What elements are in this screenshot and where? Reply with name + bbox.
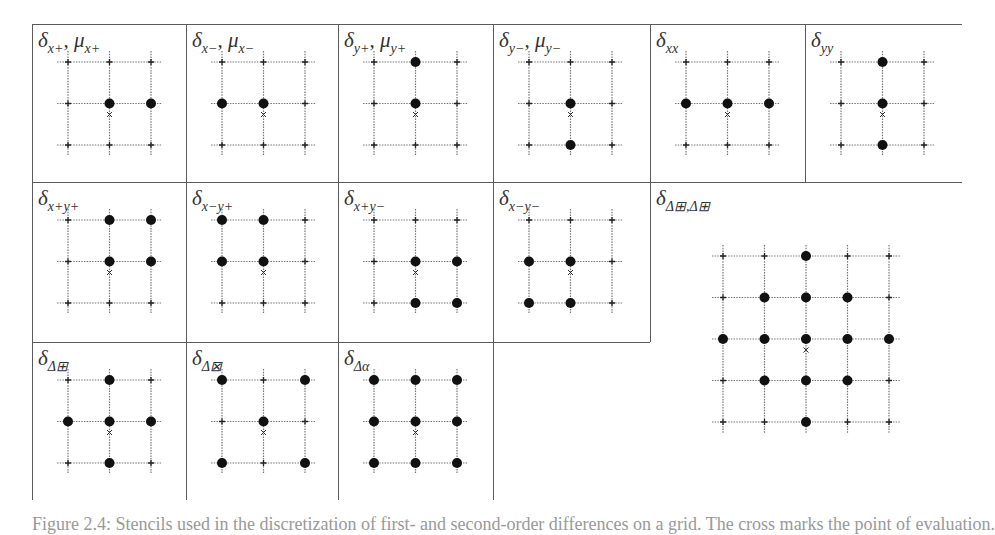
stencil-grid [57,369,162,474]
stencil-point-icon [566,298,576,308]
grid-node-icon [454,101,460,107]
grid-node-icon [720,378,726,384]
grid-node-icon [371,259,377,265]
stencil-point-icon [411,375,421,385]
grid-node-icon [568,59,574,65]
grid-node-icon [609,259,615,265]
divider [338,24,339,500]
stencil-point-icon [411,99,421,109]
stencil-point-icon [411,57,421,67]
grid-node-icon [371,300,377,306]
grid-node-icon [845,253,851,259]
stencil-point-icon [884,334,894,344]
grid-node-icon [302,259,308,265]
grid-node-icon [766,142,772,148]
stencil-label: δΔ⊞,Δ⊞ [656,188,710,214]
stencil-point-icon [801,376,811,386]
grid-node-icon [219,142,225,148]
stencil-grid [675,51,780,156]
stencil-grid [211,51,316,156]
grid-node-icon [65,460,71,466]
grid-node-icon [921,101,927,107]
stencil-point-icon [63,417,73,427]
stencil-point-icon [566,140,576,150]
stencil-point-icon [566,99,576,109]
stencil-grid [518,51,623,156]
grid-node-icon [219,300,225,306]
stencil-point-icon [259,417,269,427]
grid-node-icon [413,217,419,223]
grid-node-icon [148,59,154,65]
stencil-point-icon [843,334,853,344]
grid-node-icon [838,142,844,148]
grid-node-icon [261,142,267,148]
stencil-point-icon [300,375,310,385]
grid-node-icon [302,142,308,148]
grid-node-icon [148,142,154,148]
grid-node-icon [371,142,377,148]
grid-node-icon [302,59,308,65]
stencil-point-icon [146,417,156,427]
stencil-grid [830,51,935,156]
stencil-point-icon [105,99,115,109]
grid-node-icon [725,59,731,65]
grid-node-icon [725,142,731,148]
divider [493,24,494,500]
grid-node-icon [107,59,113,65]
grid-node-icon [526,101,532,107]
stencil-grid [211,369,316,474]
stencil-point-icon [105,458,115,468]
grid-node-icon [609,101,615,107]
stencil-grid [712,245,900,433]
grid-node-icon [609,142,615,148]
grid-node-icon [762,253,768,259]
stencil-point-icon [843,293,853,303]
stencil-point-icon [878,99,888,109]
grid-node-icon [762,419,768,425]
stencil-point-icon [259,99,269,109]
grid-node-icon [845,419,851,425]
stencil-grid [57,209,162,314]
stencil-point-icon [105,375,115,385]
grid-node-icon [302,300,308,306]
grid-node-icon [65,101,71,107]
grid-node-icon [526,59,532,65]
border-top [32,24,962,25]
grid-node-icon [766,59,772,65]
stencil-point-icon [105,215,115,225]
divider [650,24,651,342]
stencil-point-icon [300,458,310,468]
grid-node-icon [371,101,377,107]
divider [186,24,187,500]
grid-node-icon [838,101,844,107]
grid-node-icon [886,419,892,425]
stencil-point-icon [524,298,534,308]
stencil-point-icon [411,458,421,468]
stencil-grid [363,51,468,156]
grid-node-icon [107,142,113,148]
grid-node-icon [683,142,689,148]
stencil-point-icon [411,417,421,427]
stencil-point-icon [217,215,227,225]
stencil-grid [518,209,623,314]
stencil-grid [211,209,316,314]
stencil-point-icon [801,334,811,344]
stencil-point-icon [878,57,888,67]
grid-node-icon [148,300,154,306]
stencil-point-icon [146,257,156,267]
stencil-grid [363,369,468,474]
grid-node-icon [609,300,615,306]
stencil-point-icon [681,99,691,109]
stencil-point-icon [259,257,269,267]
stencil-point-icon [878,140,888,150]
figure-caption: Figure 2.4: Stencils used in the discret… [32,514,995,535]
stencil-point-icon [146,99,156,109]
grid-node-icon [886,378,892,384]
grid-node-icon [65,300,71,306]
stencil-point-icon [452,417,462,427]
grid-node-icon [454,59,460,65]
grid-node-icon [921,142,927,148]
stencil-point-icon [452,298,462,308]
grid-node-icon [65,377,71,383]
stencil-point-icon [566,257,576,267]
